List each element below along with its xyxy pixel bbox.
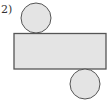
top-circle-base	[21, 3, 51, 33]
bottom-circle-base	[70, 69, 100, 99]
lateral-surface-rectangle	[14, 34, 106, 70]
cylinder-net-figure	[0, 0, 109, 104]
